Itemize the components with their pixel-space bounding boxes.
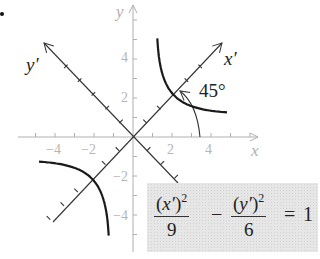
y-tick-label: 4 bbox=[121, 51, 128, 65]
y-axis-label: y bbox=[116, 3, 124, 20]
x-tick-label: 2 bbox=[167, 143, 174, 157]
exponent: 2 bbox=[258, 191, 264, 205]
equation-rhs: 1 bbox=[303, 203, 313, 226]
x-prime-label: x′ bbox=[224, 49, 237, 68]
x-axis bbox=[18, 133, 258, 137]
y-tick-label: −4 bbox=[113, 209, 128, 223]
x-tick-label: −4 bbox=[46, 143, 61, 157]
fraction-y-term: (y′)2 6 bbox=[231, 192, 266, 240]
x-axis-label: x bbox=[251, 142, 259, 159]
minus-sign: − bbox=[211, 203, 222, 226]
y-prime-label: y′ bbox=[26, 55, 39, 74]
x-tick-label: −2 bbox=[81, 143, 96, 157]
fraction-denominator: 9 bbox=[167, 217, 177, 240]
y-tick-label: 2 bbox=[121, 91, 128, 105]
equals-sign: = bbox=[284, 203, 295, 226]
y-axis bbox=[133, 5, 137, 252]
fraction-denominator: 6 bbox=[244, 217, 254, 240]
bullet-dot bbox=[0, 12, 4, 16]
x-tick-label: 4 bbox=[205, 143, 212, 157]
y-tick-label: −2 bbox=[113, 170, 128, 184]
angle-label: 45° bbox=[199, 81, 226, 100]
equation-box: (x′)2 9 − (y′)2 6 = 1 bbox=[147, 183, 318, 252]
y-prime-axis bbox=[44, 43, 178, 183]
fraction-numerator: (x′)2 bbox=[154, 192, 189, 217]
fraction-numerator: (y′)2 bbox=[231, 192, 266, 217]
y-prime-var: y′ bbox=[239, 193, 252, 214]
hyperbola-lower-branch bbox=[39, 162, 109, 236]
exponent: 2 bbox=[181, 191, 187, 205]
fraction-x-term: (x′)2 9 bbox=[154, 192, 189, 240]
angle-arc bbox=[180, 91, 200, 137]
x-prime-var: x′ bbox=[162, 193, 175, 214]
